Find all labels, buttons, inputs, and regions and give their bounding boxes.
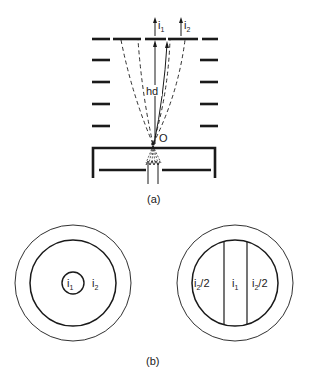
base-enclosure: [93, 148, 215, 178]
outer-ring: [15, 225, 131, 341]
label-origin: O: [159, 132, 168, 144]
figure-b: i1 i2 i2/2 i1 i2/2 (b): [15, 225, 293, 367]
origin-point: [151, 142, 155, 146]
label-right-i2-half-left: i2/2: [194, 277, 210, 291]
diagram-canvas: i1 i2 hd O (a): [0, 0, 310, 379]
left-target-concentric: [15, 225, 131, 341]
label-left-i1: i1: [67, 277, 73, 291]
label-hd: hd: [146, 85, 158, 97]
caption-a: (a): [147, 193, 160, 205]
arrow-up-icon: [179, 17, 183, 23]
arrow-up-icon: [165, 41, 169, 48]
label-i2: i2: [184, 19, 190, 33]
label-i1: i1: [158, 19, 164, 33]
left-side-electrodes: [92, 60, 110, 126]
label-left-i2: i2: [92, 277, 98, 291]
figure-a: i1 i2 hd O (a): [92, 17, 218, 205]
label-right-i2-half-right: i2/2: [252, 277, 268, 291]
arrow-up-icon: [153, 17, 157, 23]
label-right-i1: i1: [232, 277, 238, 291]
arrow-up-icon: [153, 40, 157, 47]
trajectory-arrowheads: [153, 40, 169, 48]
caption-b: (b): [146, 355, 159, 367]
right-side-electrodes: [200, 60, 218, 126]
emitter-tube: [146, 161, 160, 184]
collector-i2: [30, 240, 116, 326]
